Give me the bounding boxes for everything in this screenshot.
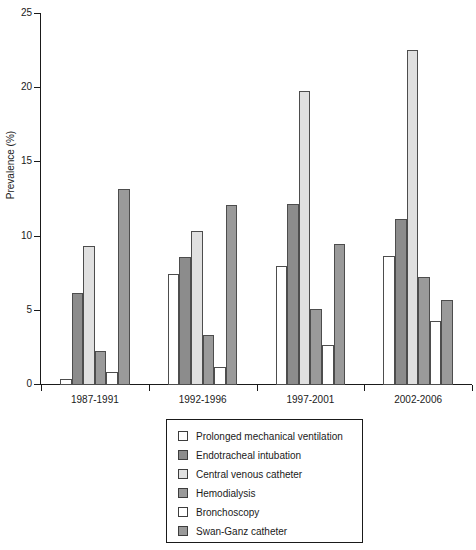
bar xyxy=(276,266,288,385)
bar xyxy=(441,300,453,385)
bar xyxy=(299,91,311,385)
legend-item-label: Swan-Ganz catheter xyxy=(196,526,287,537)
chart-legend: Prolonged mechanical ventilationEndotrac… xyxy=(166,419,363,543)
bar xyxy=(226,205,238,385)
bar xyxy=(95,351,107,385)
y-axis-tick xyxy=(34,310,40,311)
legend-item-label: Prolonged mechanical ventilation xyxy=(196,431,343,442)
bar-group xyxy=(41,13,149,385)
y-axis-tick xyxy=(34,236,40,237)
bar xyxy=(60,379,72,385)
legend-swatch-icon xyxy=(178,488,188,498)
bar xyxy=(287,204,299,385)
legend-item[interactable]: Central venous catheter xyxy=(178,467,302,481)
x-axis-tick xyxy=(149,385,150,391)
legend-swatch-icon xyxy=(178,431,188,441)
legend-item-label: Endotracheal intubation xyxy=(196,450,301,461)
bar-group xyxy=(257,13,365,385)
bar xyxy=(72,293,84,385)
bar-group xyxy=(364,13,472,385)
x-axis-category-label: 2002-2006 xyxy=(368,394,468,406)
bar xyxy=(106,372,118,385)
y-axis-tick-label: 10 xyxy=(8,231,32,241)
legend-item[interactable]: Bronchoscopy xyxy=(178,505,259,519)
y-axis-tick-label: 5 xyxy=(8,305,32,315)
y-axis-tick-label: 0 xyxy=(8,379,32,389)
bar-group xyxy=(149,13,257,385)
y-axis-tick-label: 15 xyxy=(8,156,32,166)
bar xyxy=(118,189,130,385)
legend-swatch-icon xyxy=(178,469,188,479)
y-axis-tick-label: 25 xyxy=(8,8,32,18)
x-axis-tick xyxy=(364,385,365,391)
bar xyxy=(334,244,346,385)
legend-item[interactable]: Hemodialysis xyxy=(178,486,255,500)
bar xyxy=(214,367,226,385)
y-axis-tick-label: 20 xyxy=(8,82,32,92)
legend-swatch-icon xyxy=(178,507,188,517)
bar xyxy=(83,246,95,385)
bar xyxy=(395,219,407,385)
bar xyxy=(430,321,442,385)
legend-swatch-icon xyxy=(178,450,188,460)
legend-item[interactable]: Prolonged mechanical ventilation xyxy=(178,429,343,443)
bar xyxy=(310,309,322,385)
legend-item-label: Central venous catheter xyxy=(196,469,302,480)
bar xyxy=(407,50,419,385)
bar xyxy=(322,345,334,385)
bar xyxy=(191,231,203,385)
bar xyxy=(383,256,395,385)
bar-chart-figure: Prevalence (%) 0510152025 1987-19911992-… xyxy=(0,0,476,550)
y-axis-tick xyxy=(34,384,40,385)
bar xyxy=(203,335,215,385)
bar xyxy=(168,274,180,385)
x-axis-tick xyxy=(257,385,258,391)
x-axis-category-label: 1992-1996 xyxy=(153,394,253,406)
x-axis-tick xyxy=(472,385,473,391)
legend-item-label: Hemodialysis xyxy=(196,488,255,499)
legend-swatch-icon xyxy=(178,526,188,536)
bars-layer xyxy=(41,13,472,385)
y-axis-tick xyxy=(34,161,40,162)
legend-item[interactable]: Swan-Ganz catheter xyxy=(178,524,287,538)
y-axis-tick xyxy=(34,87,40,88)
x-axis-category-label: 1987-1991 xyxy=(45,394,145,406)
y-axis-tick xyxy=(34,13,40,14)
bar xyxy=(418,277,430,385)
x-axis-tick xyxy=(41,385,42,391)
legend-item-label: Bronchoscopy xyxy=(196,507,259,518)
legend-item[interactable]: Endotracheal intubation xyxy=(178,448,301,462)
x-axis-category-label: 1997-2001 xyxy=(260,394,360,406)
bar xyxy=(179,257,191,385)
